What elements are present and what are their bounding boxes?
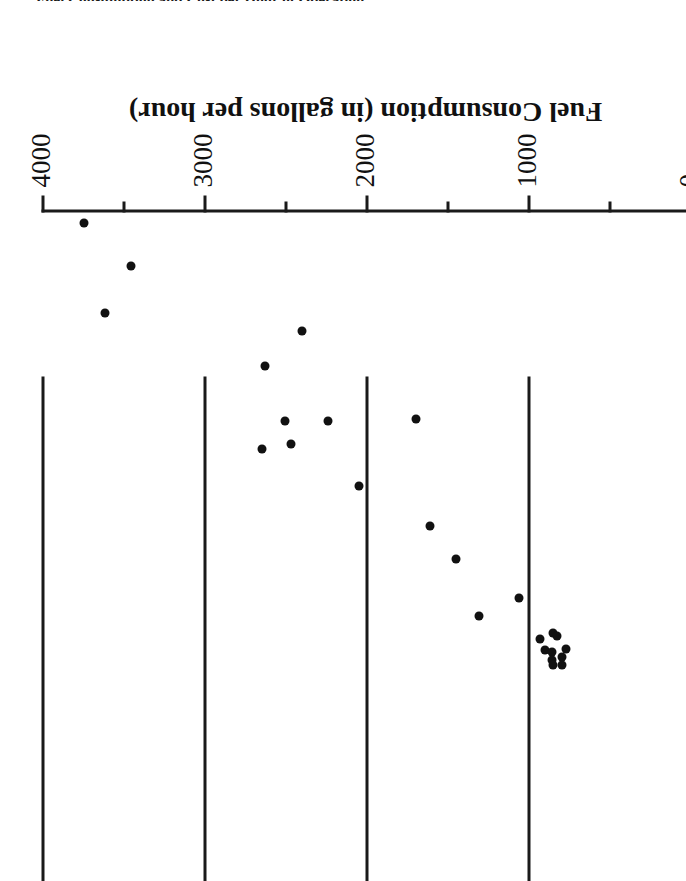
- fuel-axis-line: [41, 209, 686, 212]
- rotated-chart-container: 01000200030004000 8000700060005000400030…: [0, 0, 686, 881]
- data-point: [323, 416, 332, 425]
- fuel-axis-title: Fuel Consumption (in gallons per hour): [128, 95, 601, 127]
- fuel-tick-major: [527, 195, 530, 212]
- data-point: [257, 444, 266, 453]
- scatter-plot: 01000200030004000 8000700060005000400030…: [0, 0, 686, 881]
- fuel-tick-major: [365, 195, 368, 212]
- figure-canvas: Fuel Consumption and Cost per Hour of Op…: [0, 0, 686, 881]
- gridline: [41, 376, 44, 881]
- data-point: [552, 631, 561, 640]
- data-point: [260, 361, 269, 370]
- data-point: [474, 611, 483, 620]
- data-point: [297, 326, 306, 335]
- data-point: [79, 218, 88, 227]
- fuel-tick-label: 2000: [352, 133, 379, 187]
- data-point: [548, 660, 557, 669]
- fuel-tick-label: 0: [676, 174, 686, 188]
- fuel-tick-major: [41, 195, 44, 212]
- fuel-tick-label: 4000: [28, 133, 55, 187]
- data-point: [411, 414, 420, 423]
- data-point: [557, 660, 566, 669]
- data-point: [451, 554, 460, 563]
- data-point: [535, 634, 544, 643]
- data-point: [100, 308, 109, 317]
- data-point: [425, 521, 434, 530]
- fuel-tick-major: [203, 195, 206, 212]
- data-point: [286, 439, 295, 448]
- data-point: [354, 481, 363, 490]
- gridline: [365, 376, 368, 881]
- fuel-tick-minor: [446, 201, 449, 212]
- data-point: [280, 416, 289, 425]
- fuel-tick-minor: [122, 201, 125, 212]
- fuel-tick-label: 1000: [514, 133, 541, 187]
- gridline: [203, 376, 206, 881]
- gridline: [527, 376, 530, 881]
- fuel-tick-label: 3000: [190, 133, 217, 187]
- fuel-tick-minor: [284, 201, 287, 212]
- fuel-tick-minor: [608, 201, 611, 212]
- data-point: [126, 262, 135, 271]
- data-point: [561, 644, 570, 653]
- data-point: [514, 593, 523, 602]
